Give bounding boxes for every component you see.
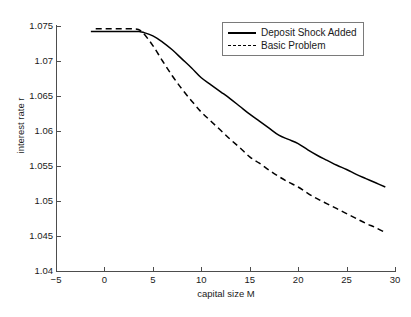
figure-canvas: 1.041.0451.051.0551.061.0651.071.075 −50…: [0, 0, 411, 317]
legend-item-basic-problem: Basic Problem: [227, 39, 357, 52]
legend-item-deposit-shock-added: Deposit Shock Added: [227, 26, 357, 39]
series-line-basic-problem: [96, 29, 386, 233]
legend-box: Deposit Shock Added Basic Problem: [222, 22, 364, 56]
legend-label: Basic Problem: [261, 40, 325, 52]
legend-dashed-line-swatch: [227, 40, 257, 51]
legend-label: Deposit Shock Added: [261, 27, 357, 39]
legend-solid-line-swatch: [227, 27, 257, 38]
